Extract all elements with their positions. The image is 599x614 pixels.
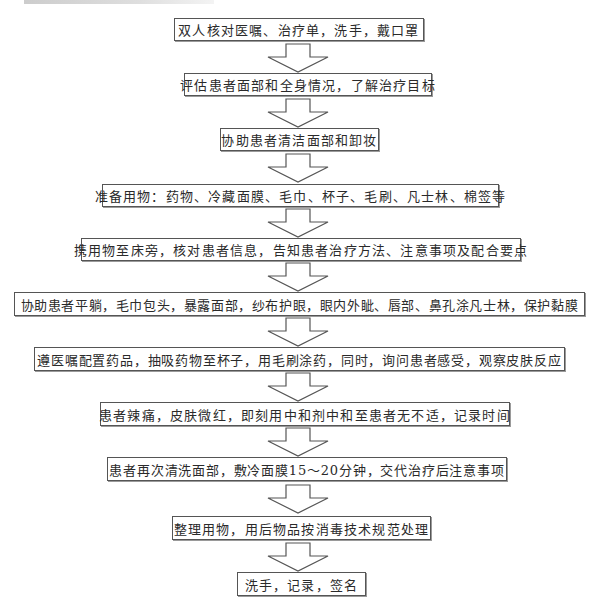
- step-label: 携用物至床旁，核对患者信息，告知患者治疗方法、注意事项及配合要点: [74, 240, 528, 259]
- step-apply-medication: 遵医嘱配置药品，抽吸药物至杯子，用毛刷涂药，同时，询问患者感受，观察皮肤反应: [34, 347, 565, 371]
- step-tidy-disinfect: 整理用物，用后物品按消毒技术规范处理: [172, 516, 431, 540]
- step-label: 双人核对医嘱、治疗单，洗手，戴口罩: [178, 20, 419, 39]
- step-label: 患者辣痛，皮肤微红，即刻用中和剂中和至患者无不适，记录时间: [99, 405, 511, 424]
- step-label: 准备用物：药物、冷藏面膜、毛巾、杯子、毛刷、凡士林、棉签等: [95, 186, 507, 205]
- step-label: 协助患者清洁面部和卸妆: [221, 130, 377, 149]
- down-arrow-icon: [266, 153, 330, 183]
- down-arrow-icon: [266, 372, 330, 402]
- down-arrow-icon: [266, 208, 330, 238]
- step-label: 洗手，记录，签名: [245, 575, 359, 594]
- step-label: 遵医嘱配置药品，抽吸药物至杯子，用毛刷涂药，同时，询问患者感受，观察皮肤反应: [37, 350, 561, 369]
- down-arrow-icon: [266, 427, 330, 457]
- step-verify-orders: 双人核对医嘱、治疗单，洗手，戴口罩: [174, 18, 424, 41]
- step-wash-record-sign: 洗手，记录，签名: [237, 572, 366, 596]
- step-label: 协助患者平躺，毛巾包头，暴露面部，纱布护眼，眼内外眦、唇部、鼻孔涂凡士林，保护黏…: [21, 295, 579, 314]
- down-arrow-icon: [266, 317, 330, 347]
- step-label: 整理用物，用后物品按消毒技术规范处理: [174, 519, 430, 538]
- step-bedside-inform: 携用物至床旁，核对患者信息，告知患者治疗方法、注意事项及配合要点: [81, 238, 521, 261]
- down-arrow-icon: [266, 484, 330, 514]
- step-assess-patient: 评估患者面部和全身情况，了解治疗目标: [184, 73, 432, 96]
- step-cold-mask: 患者再次清洗面部，敷冷面膜15～20分钟，交代治疗后注意事项: [107, 457, 507, 481]
- step-position-protect: 协助患者平躺，毛巾包头，暴露面部，纱布护眼，眼内外眦、唇部、鼻孔涂凡士林，保护黏…: [14, 292, 585, 316]
- step-prepare-supplies: 准备用物：药物、冷藏面膜、毛巾、杯子、毛刷、凡士林、棉签等: [102, 184, 499, 207]
- step-label: 评估患者面部和全身情况，了解治疗目标: [180, 75, 436, 94]
- cropped-caption-remnant: [24, 0, 214, 4]
- step-clean-face: 协助患者清洁面部和卸妆: [220, 128, 379, 151]
- down-arrow-icon: [266, 43, 330, 73]
- step-neutralize: 患者辣痛，皮肤微红，即刻用中和剂中和至患者无不适，记录时间: [100, 402, 510, 426]
- step-label: 患者再次清洗面部，敷冷面膜15～20分钟，交代治疗后注意事项: [109, 460, 504, 479]
- down-arrow-icon: [266, 262, 330, 292]
- down-arrow-icon: [266, 98, 330, 128]
- down-arrow-icon: [266, 542, 330, 572]
